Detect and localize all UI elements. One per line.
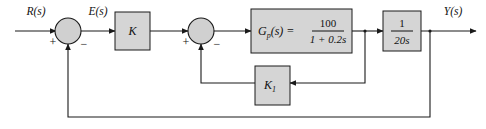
plant-gp-label-main: G [258,24,267,38]
inner-summer-minus-sign: − [214,37,221,51]
inner-summer-plus-sign: + [183,35,190,49]
outer-summer[interactable] [55,18,81,44]
block-diagram-svg: R(s) E(s) Y(s) + − + − K Gp(s) = 100 1 +… [0,0,486,129]
outer-summer-minus-sign: − [81,37,88,51]
gain-k-label: K [127,24,137,38]
input-signal-label: R(s) [25,5,45,18]
inner-summer[interactable] [188,18,214,44]
plant-denominator: 1 + 0.2s [310,33,346,45]
integrator-denominator: 20s [394,34,409,46]
error-signal-label: E(s) [87,5,107,18]
outer-summer-plus-sign: + [50,35,57,49]
integrator-numerator: 1 [399,17,405,29]
feedback-k1-label-subscript: 1 [272,85,276,94]
plant-gp-label: Gp(s) = [258,24,294,40]
output-signal-label: Y(s) [444,5,463,18]
block-diagram-canvas: R(s) E(s) Y(s) + − + − K Gp(s) = 100 1 +… [0,0,486,129]
plant-gp-label-rest: (s) = [271,24,295,38]
plant-numerator: 100 [320,17,337,29]
wire-k1-to-inner-summer [201,44,255,83]
